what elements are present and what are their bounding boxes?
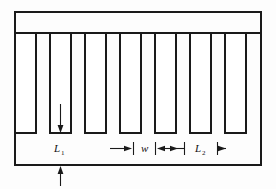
- slot-7: [225, 33, 246, 133]
- slot-5: [155, 33, 176, 133]
- label-l2-subscript: 2: [202, 149, 206, 157]
- label-l1-subscript: 1: [61, 149, 65, 157]
- slot-group: [15, 33, 246, 133]
- slot-1: [15, 33, 36, 133]
- label-l1: L: [53, 142, 60, 154]
- label-l2: L: [194, 142, 201, 154]
- figure-container: L 1 w L 2: [0, 0, 276, 189]
- comb-structure-diagram: L 1 w L 2: [0, 0, 276, 189]
- bottom-arrow: [58, 166, 64, 186]
- slot-4: [120, 33, 141, 133]
- slot-3: [85, 33, 106, 133]
- label-w: w: [141, 142, 149, 154]
- slot-6: [190, 33, 211, 133]
